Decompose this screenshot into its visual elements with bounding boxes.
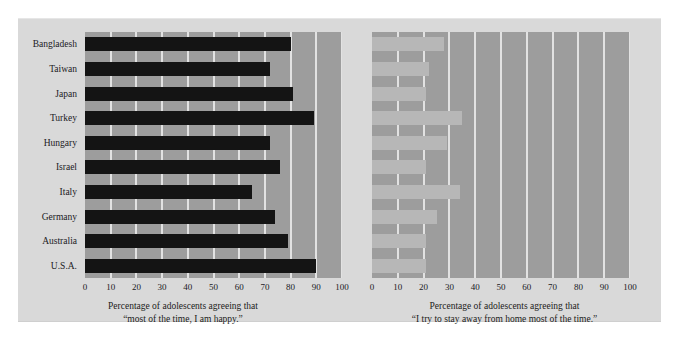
x-tick-60: 60 xyxy=(522,282,531,292)
bar-happy-australia xyxy=(85,234,288,248)
caption-left-line1: Percentage of adolescents agreeing that xyxy=(18,300,348,313)
bar-stayaway-australia xyxy=(372,234,426,248)
y-label-italy: Italy xyxy=(14,185,81,199)
x-tick-100: 100 xyxy=(623,282,637,292)
plot-area-left xyxy=(85,32,342,278)
caption-left-line2: “most of the time, I am happy.” xyxy=(18,313,348,326)
gridline-40 xyxy=(474,32,476,278)
y-label-australia: Australia xyxy=(14,234,81,248)
bar-happy-japan xyxy=(85,87,293,101)
caption-right-line1: Percentage of adolescents agreeing that xyxy=(348,300,661,313)
chart-happy: BangladeshTaiwanJapanTurkeyHungaryIsrael… xyxy=(18,18,348,322)
gridline-80 xyxy=(577,32,579,278)
bar-happy-bangladesh xyxy=(85,37,291,51)
bar-stayaway-usa xyxy=(372,259,426,273)
x-axis-left: 0102030405060708090100 xyxy=(85,282,342,298)
gridline-90 xyxy=(315,32,317,278)
gridline-80 xyxy=(290,32,292,278)
y-label-taiwan: Taiwan xyxy=(14,62,81,76)
x-tick-10: 10 xyxy=(106,282,115,292)
x-tick-60: 60 xyxy=(235,282,244,292)
bar-stayaway-bangladesh xyxy=(372,37,444,51)
caption-right: Percentage of adolescents agreeing that … xyxy=(348,300,661,325)
caption-left: Percentage of adolescents agreeing that … xyxy=(18,300,348,325)
gridline-60 xyxy=(526,32,528,278)
x-tick-0: 0 xyxy=(83,282,88,292)
x-tick-90: 90 xyxy=(600,282,609,292)
gridline-100 xyxy=(629,32,630,278)
x-tick-70: 70 xyxy=(260,282,269,292)
bar-stayaway-israel xyxy=(372,160,426,174)
y-label-japan: Japan xyxy=(14,87,81,101)
x-tick-80: 80 xyxy=(574,282,583,292)
bar-stayaway-hungary xyxy=(372,136,447,150)
gridline-50 xyxy=(500,32,502,278)
x-tick-20: 20 xyxy=(419,282,428,292)
x-tick-30: 30 xyxy=(158,282,167,292)
x-tick-90: 90 xyxy=(312,282,321,292)
x-tick-100: 100 xyxy=(335,282,349,292)
bar-happy-turkey xyxy=(85,111,314,125)
bar-happy-italy xyxy=(85,185,252,199)
bar-happy-germany xyxy=(85,210,275,224)
y-label-turkey: Turkey xyxy=(14,111,81,125)
bar-happy-hungary xyxy=(85,136,270,150)
bar-happy-israel xyxy=(85,160,280,174)
x-axis-right: 0102030405060708090100 xyxy=(372,282,630,298)
x-tick-50: 50 xyxy=(497,282,506,292)
x-tick-10: 10 xyxy=(393,282,402,292)
figure-container: BangladeshTaiwanJapanTurkeyHungaryIsrael… xyxy=(0,0,679,351)
bar-stayaway-taiwan xyxy=(372,62,429,76)
gridline-30 xyxy=(448,32,450,278)
bar-stayaway-italy xyxy=(372,185,460,199)
y-label-germany: Germany xyxy=(14,210,81,224)
bar-stayaway-turkey xyxy=(372,111,462,125)
x-tick-50: 50 xyxy=(209,282,218,292)
bar-stayaway-japan xyxy=(372,87,426,101)
chart-stay-away: 0102030405060708090100 Percentage of ado… xyxy=(348,18,661,322)
x-tick-20: 20 xyxy=(132,282,141,292)
y-label-hungary: Hungary xyxy=(14,136,81,150)
y-label-israel: Israel xyxy=(14,160,81,174)
y-label-bangladesh: Bangladesh xyxy=(14,37,81,51)
x-tick-40: 40 xyxy=(183,282,192,292)
y-label-usa: U.S.A. xyxy=(14,259,81,273)
x-tick-30: 30 xyxy=(445,282,454,292)
x-tick-0: 0 xyxy=(370,282,375,292)
gridline-90 xyxy=(603,32,605,278)
caption-right-line2: “I try to stay away from home most of th… xyxy=(348,313,661,326)
bar-stayaway-germany xyxy=(372,210,437,224)
gridline-100 xyxy=(341,32,342,278)
bar-happy-usa xyxy=(85,259,316,273)
plot-area-right xyxy=(372,32,630,278)
bar-happy-taiwan xyxy=(85,62,270,76)
x-tick-40: 40 xyxy=(471,282,480,292)
y-axis-labels-left: BangladeshTaiwanJapanTurkeyHungaryIsrael… xyxy=(18,32,81,278)
x-tick-70: 70 xyxy=(548,282,557,292)
gridline-70 xyxy=(552,32,554,278)
x-tick-80: 80 xyxy=(286,282,295,292)
